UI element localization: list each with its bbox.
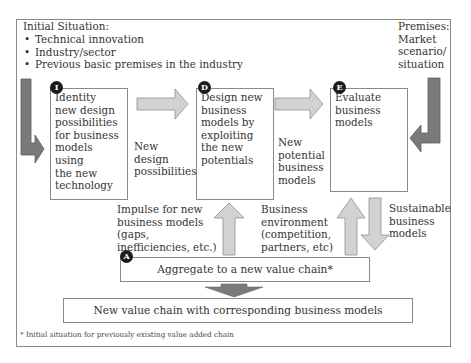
premises-arrow-icon — [410, 78, 440, 152]
label-line: business — [389, 215, 451, 228]
label-line: Sustainable — [389, 202, 451, 215]
label-line: potential — [278, 149, 325, 162]
arrow-a-to-e-icon — [337, 198, 365, 255]
step-text-line: for business — [55, 129, 124, 142]
label-line: environment — [261, 216, 333, 229]
arrow-e-down-icon — [361, 198, 389, 250]
premises-label: Premises: Market scenario/ situation — [398, 20, 458, 70]
arrow-a-to-result-icon — [205, 284, 263, 297]
step-text-line: Evaluate — [335, 91, 404, 104]
premises-line: situation — [398, 58, 458, 71]
aggregate-box: A Aggregate to a new value chain* — [120, 257, 370, 282]
step-badge-a: A — [120, 250, 133, 263]
step-text-line: business — [335, 104, 404, 117]
step-identify-box: I Identity new design possibilities for … — [50, 88, 128, 200]
footnote: * Initial situation for previously exist… — [20, 330, 234, 339]
step-text-line: the new — [201, 141, 270, 154]
initial-situation-title: Initial Situation: — [23, 20, 109, 33]
step-text-line: models using — [55, 141, 124, 166]
label-line: business models — [117, 216, 217, 229]
label-line: possibilities — [134, 165, 197, 178]
label-line: Business — [261, 203, 333, 216]
step-text-line: technology — [55, 179, 124, 192]
step-text-line: models by — [201, 116, 270, 129]
step-text-line: new design — [55, 104, 124, 117]
label-line: business — [278, 161, 325, 174]
arrow-a-to-d-icon — [214, 203, 244, 255]
label-line: models — [389, 227, 451, 240]
result-label: New value chain with corresponding busin… — [64, 304, 412, 316]
new-potential-label: New potential business models — [278, 136, 325, 186]
new-design-label: New design possibilities — [134, 140, 197, 178]
step-text-line: business — [201, 104, 270, 117]
step-text-line: the new — [55, 167, 124, 180]
step-text-line: models — [335, 116, 404, 129]
step-design-box: D Design new business models by exploiti… — [196, 88, 274, 200]
initial-situation-item: Previous basic premises in the industry — [23, 58, 243, 71]
initial-situation-list: Technical innovation Industry/sector Pre… — [23, 33, 243, 71]
step-text-line: exploiting — [201, 129, 270, 142]
step-text-line: potentials — [201, 154, 270, 167]
step-text-line: Identity — [55, 91, 124, 104]
business-environment-label: Business environment (competition, partn… — [261, 203, 333, 253]
label-line: New — [134, 140, 197, 153]
premises-line: scenario/ — [398, 45, 458, 58]
label-line: design — [134, 153, 197, 166]
step-text-line: Design new — [201, 91, 270, 104]
label-line: (competition, — [261, 228, 333, 241]
label-line: New — [278, 136, 325, 149]
step-text-line: possibilities — [55, 116, 124, 129]
arrow-d-to-e-icon — [275, 89, 323, 119]
label-line: Impulse for new — [117, 203, 217, 216]
label-line: (gaps, — [117, 228, 217, 241]
premises-line: Premises: — [398, 20, 458, 33]
initial-situation-item: Technical innovation — [23, 33, 243, 46]
step-evaluate-box: E Evaluate business models — [330, 88, 408, 192]
label-line: models — [278, 174, 325, 187]
initial-situation-arrow-icon — [21, 79, 44, 163]
initial-situation-item: Industry/sector — [23, 46, 243, 59]
label-line: inefficiencies, etc.) — [117, 241, 217, 254]
sustainable-label: Sustainable business models — [389, 202, 451, 240]
arrow-i-to-d-icon — [137, 89, 188, 119]
premises-line: Market — [398, 33, 458, 46]
result-box: New value chain with corresponding busin… — [63, 298, 413, 323]
aggregate-label: Aggregate to a new value chain* — [121, 263, 369, 275]
impulse-label: Impulse for new business models (gaps, i… — [117, 203, 217, 253]
label-line: partners, etc) — [261, 241, 333, 254]
